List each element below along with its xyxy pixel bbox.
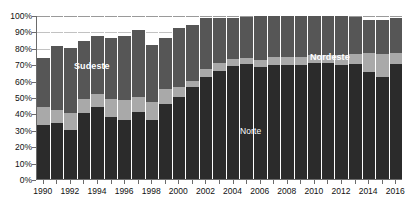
y-tick-label: 100% <box>2 12 32 21</box>
bar-segment-norte <box>335 65 348 179</box>
bar-segment-norte <box>240 64 253 179</box>
bar-segment-norte <box>308 63 321 179</box>
x-tick-mark <box>327 180 328 184</box>
bar-column <box>78 16 92 179</box>
x-tick-mark <box>273 180 274 184</box>
bar-column <box>295 16 309 179</box>
x-tick-mark <box>260 180 261 184</box>
bar-segment-sudeste <box>390 18 403 52</box>
bar-column <box>64 16 78 179</box>
bar-segment-norte <box>363 72 376 179</box>
y-tick-label: 60% <box>2 77 32 86</box>
y-tick-mark <box>32 49 36 50</box>
x-tick-mark <box>138 180 139 184</box>
x-tick-mark <box>165 180 166 184</box>
y-tick-mark <box>32 180 36 181</box>
y-tick-mark <box>32 16 36 17</box>
bar-segment-norte <box>51 123 64 179</box>
plot-area <box>36 16 402 180</box>
bar-segment-norte <box>91 107 104 179</box>
bar-segment-sudeste <box>254 16 267 60</box>
bar-segment-nordeste <box>295 57 308 65</box>
x-tick-mark <box>97 180 98 184</box>
bar-segment-sudeste <box>64 48 77 114</box>
bar-column <box>159 16 173 179</box>
bar-column <box>213 16 227 179</box>
bar-column <box>173 16 187 179</box>
bar-segment-sudeste <box>146 45 159 102</box>
x-tick-mark <box>246 180 247 184</box>
bar-segment-nordeste <box>64 113 77 129</box>
bar-column <box>200 16 214 179</box>
x-tick-mark <box>382 180 383 184</box>
x-tick-mark <box>287 180 288 184</box>
y-tick-label: 10% <box>2 159 32 168</box>
bar-segment-norte <box>159 104 172 179</box>
x-tick-label: 1994 <box>88 186 107 196</box>
bar-segment-nordeste <box>37 107 50 125</box>
bar-segment-norte <box>281 65 294 179</box>
x-tick-mark <box>341 180 342 184</box>
bar-segment-sudeste <box>322 16 335 55</box>
series-label-sudeste: Sudeste <box>74 61 110 71</box>
bar-segment-nordeste <box>268 57 281 65</box>
bar-column <box>91 16 105 179</box>
x-tick-mark <box>111 180 112 184</box>
bar-column <box>118 16 132 179</box>
bar-segment-nordeste <box>376 54 389 77</box>
bar-segment-norte <box>200 77 213 179</box>
bar-segment-sudeste <box>376 20 389 54</box>
y-tick-mark <box>32 82 36 83</box>
x-tick-mark <box>43 180 44 184</box>
y-tick-mark <box>32 32 36 33</box>
bar-column <box>186 16 200 179</box>
bar-segment-nordeste <box>349 54 362 64</box>
bar-segment-sudeste <box>132 30 145 97</box>
bar-segment-norte <box>227 66 240 179</box>
bar-segment-norte <box>146 120 159 179</box>
x-tick-label: 2002 <box>196 186 215 196</box>
x-tick-mark <box>314 180 315 184</box>
bar-column <box>363 16 377 179</box>
bar-segment-nordeste <box>159 89 172 104</box>
bar-segment-norte <box>78 113 91 179</box>
bar-segment-nordeste <box>78 99 91 114</box>
bar-segment-nordeste <box>281 57 294 65</box>
y-tick-mark <box>32 164 36 165</box>
x-tick-label: 1990 <box>33 186 52 196</box>
bar-column <box>376 16 390 179</box>
y-tick-label: 20% <box>2 143 32 152</box>
x-tick-mark <box>151 180 152 184</box>
bar-segment-sudeste <box>51 46 64 110</box>
x-tick-label: 2012 <box>332 186 351 196</box>
bar-column <box>105 16 119 179</box>
y-tick-label: 90% <box>2 28 32 37</box>
series-label-norte: Norte <box>240 126 261 136</box>
bar-segment-norte <box>186 87 199 179</box>
bar-segment-norte <box>105 117 118 179</box>
x-tick-label: 1992 <box>60 186 79 196</box>
bar-segment-sudeste <box>37 58 50 107</box>
y-axis: 0%10%20%30%40%50%60%70%80%90%100% <box>0 16 32 180</box>
bar-segment-sudeste <box>213 18 226 62</box>
bar-column <box>308 16 322 179</box>
bar-column <box>254 16 268 179</box>
bar-column <box>240 16 254 179</box>
bar-segment-norte <box>37 125 50 179</box>
bar-column <box>335 16 349 179</box>
bar-series-container <box>37 16 402 179</box>
bar-segment-norte <box>322 63 335 179</box>
bar-segment-sudeste <box>363 20 376 53</box>
bar-column <box>390 16 403 179</box>
x-tick-mark <box>233 180 234 184</box>
bar-segment-sudeste <box>200 18 213 69</box>
y-tick-mark <box>32 147 36 148</box>
bar-column <box>146 16 160 179</box>
x-tick-mark <box>205 180 206 184</box>
bar-segment-sudeste <box>173 28 186 87</box>
y-tick-label: 40% <box>2 110 32 119</box>
bar-segment-nordeste <box>91 94 104 107</box>
x-tick-label: 1998 <box>142 186 161 196</box>
bar-segment-norte <box>390 64 403 179</box>
y-tick-label: 80% <box>2 44 32 53</box>
